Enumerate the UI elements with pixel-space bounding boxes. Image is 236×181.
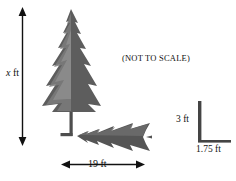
tree-height-label: x ft	[6, 68, 19, 78]
diagram-canvas: x ft (NOT TO SCALE) 19 ft 3 ft 1.75 ft	[0, 0, 236, 181]
vertical-stick-icon	[198, 101, 201, 140]
tree-height-unit: ft	[10, 67, 19, 78]
double-headed-vertical-arrow-icon	[19, 7, 27, 146]
stick-shadow-length-label: 1.75 ft	[196, 145, 221, 155]
pine-tree-shadow-shading	[79, 124, 148, 136]
not-to-scale-note: (NOT TO SCALE)	[122, 54, 190, 63]
horizontal-shadow-bar-icon	[198, 140, 231, 143]
pine-tree-icon	[42, 9, 101, 112]
stick-height-label: 3 ft	[176, 115, 189, 125]
tree-shadow-length-label: 19 ft	[88, 159, 107, 169]
